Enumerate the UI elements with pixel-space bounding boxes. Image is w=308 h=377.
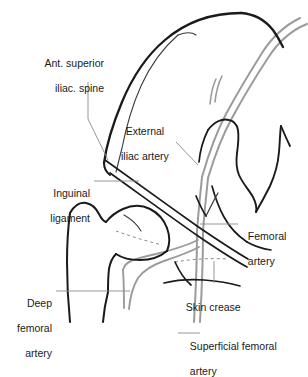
label-ant-superior-iliac-spine: Ant. superior iliac. spine [4, 44, 104, 94]
label-external-iliac-artery: External iliac artery [104, 112, 180, 162]
inguinal-ligament-band [105, 160, 248, 267]
trochanter-lower [108, 254, 116, 292]
label-line-1: External [126, 125, 165, 137]
label-line-3: artery [25, 347, 52, 359]
pubic-ramus [199, 130, 208, 162]
skin-crease-dashed [175, 259, 228, 262]
label-line-2: femoral [17, 322, 52, 334]
femoral-shaft-right [103, 292, 108, 322]
label-line-2: iliac. spine [55, 82, 104, 94]
label-line-2: iliac artery [121, 150, 169, 162]
inner-brim-hook [178, 33, 196, 35]
external-iliac-artery-vessel [202, 18, 307, 178]
pubis-upper-right [281, 126, 290, 146]
label-femoral-artery: Femoral artery [242, 217, 304, 267]
label-line-2: ligament [50, 212, 90, 224]
inferior-epigastric-branch [210, 76, 222, 104]
label-superficial-femoral-artery: Superficial femoral artery [184, 327, 308, 377]
femur-head-right [167, 228, 169, 251]
iliac-crest-right [241, 13, 283, 47]
femoral-shaft-left [67, 213, 70, 322]
adductor-contour [206, 193, 218, 216]
label-line-1: Skin crease [186, 301, 241, 313]
label-line-1: Femoral [248, 230, 287, 242]
ischium-right-edge [256, 126, 281, 212]
label-line-1: Inguinal [53, 187, 90, 199]
artery-group [123, 18, 307, 322]
label-line-2: artery [190, 365, 217, 377]
label-deep-femoral-artery: Deep femoral artery [0, 284, 52, 359]
femur-inner-arc [124, 215, 141, 231]
femoral-neck-dashed [116, 231, 162, 245]
label-inguinal-ligament: Inguinal ligament [18, 174, 90, 224]
label-line-1: Deep [27, 297, 52, 309]
label-skin-crease: Skin crease [180, 288, 260, 313]
label-line-1: Superficial femoral [190, 340, 277, 352]
asis-edge [104, 163, 110, 175]
soft-tissue-contour [175, 262, 191, 285]
label-line-2: artery [248, 255, 275, 267]
label-line-1: Ant. superior [44, 57, 104, 69]
